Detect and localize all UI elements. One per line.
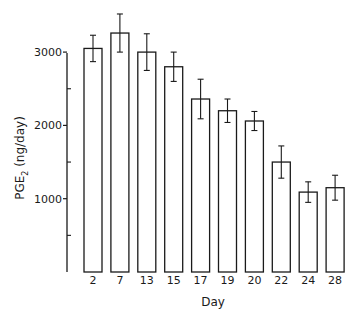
x-tick-label: 19	[221, 274, 235, 287]
x-tick-label: 28	[328, 274, 342, 287]
x-tick-label: 13	[140, 274, 154, 287]
bar-day-15	[165, 52, 183, 272]
x-tick-label: 24	[301, 274, 315, 287]
x-tick-label: 20	[247, 274, 261, 287]
x-axis-title: Day	[201, 295, 225, 309]
bar-chart: 100020003000 271315171920222428 Day PGE2…	[0, 0, 358, 314]
bar-day-24	[299, 182, 317, 272]
x-tick-label: 7	[116, 274, 123, 287]
x-tick-label: 15	[167, 274, 181, 287]
x-tick-label: 17	[194, 274, 208, 287]
bar-day-19	[219, 99, 237, 272]
x-tick-label: 22	[274, 274, 288, 287]
bar-day-20	[245, 111, 263, 272]
bar	[192, 99, 210, 272]
x-tick-label: 2	[90, 274, 97, 287]
y-tick-label: 1000	[34, 193, 62, 206]
bar-day-2	[84, 35, 102, 272]
y-axis: 100020003000	[34, 46, 71, 272]
bar-day-7	[111, 14, 129, 272]
bar-day-22	[272, 146, 290, 272]
bar	[111, 33, 129, 272]
bar-day-28	[326, 175, 344, 272]
y-axis-title: PGE2 (ng/day)	[13, 116, 30, 200]
bar	[138, 52, 156, 272]
y-tick-label: 2000	[34, 119, 62, 132]
bar	[165, 67, 183, 272]
y-tick-label: 3000	[34, 46, 62, 59]
bars	[84, 14, 344, 272]
x-axis-tick-labels: 271315171920222428	[90, 274, 343, 287]
bar-day-13	[138, 34, 156, 272]
bar-day-17	[192, 79, 210, 272]
bar	[245, 121, 263, 272]
y-axis-title-units: (ng/day)	[13, 116, 27, 171]
bar	[84, 48, 102, 272]
bar	[219, 111, 237, 272]
bar	[299, 192, 317, 272]
y-axis-title-main: PGE	[13, 176, 27, 200]
